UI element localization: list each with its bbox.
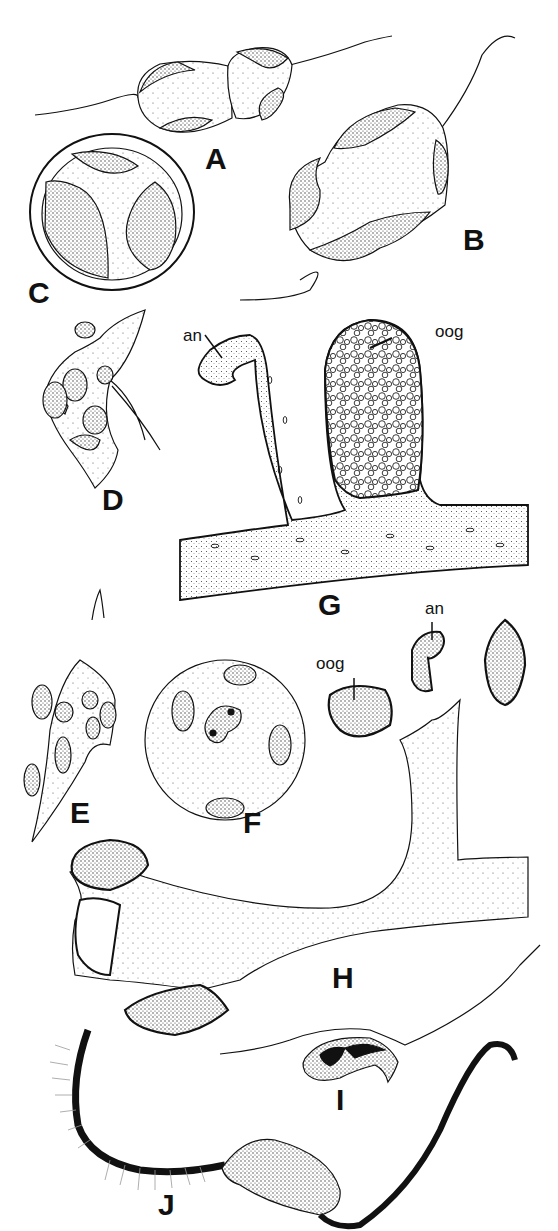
panel-i-drawing xyxy=(220,945,540,1082)
panel-j-drawing xyxy=(50,1030,515,1226)
panel-d-drawing xyxy=(43,310,160,488)
panel-label-f: F xyxy=(243,808,261,838)
annotation-h-oog: oog xyxy=(316,655,344,672)
panel-label-c: C xyxy=(28,278,50,308)
panel-label-h: H xyxy=(332,963,354,993)
panel-label-a: A xyxy=(205,144,227,174)
annotation-g-oog: oog xyxy=(435,323,463,340)
panel-a-drawing xyxy=(35,36,392,132)
panel-f-drawing xyxy=(145,660,305,820)
annotation-g-an: an xyxy=(183,327,202,344)
panel-label-e: E xyxy=(70,798,90,828)
panel-label-j: J xyxy=(158,1190,175,1220)
panel-c-drawing xyxy=(30,134,194,290)
panel-label-i: I xyxy=(336,1085,344,1115)
illustration-plate xyxy=(0,0,558,1231)
panel-g-drawing xyxy=(180,320,528,600)
panel-label-d: D xyxy=(102,485,124,515)
panel-h-drawing xyxy=(70,620,528,1035)
panel-label-g: G xyxy=(318,590,341,620)
annotation-h-an: an xyxy=(425,600,444,617)
panel-label-b: B xyxy=(463,225,485,255)
